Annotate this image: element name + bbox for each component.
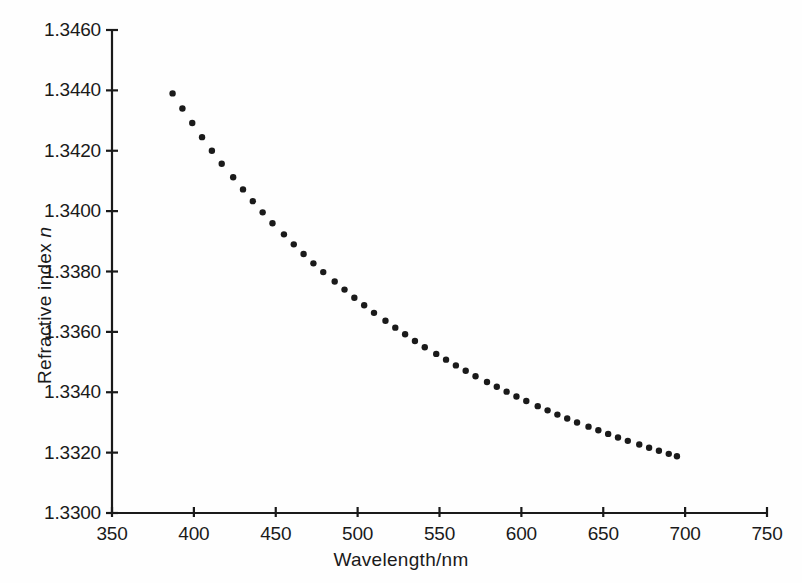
data-point [453, 362, 459, 368]
data-point [250, 198, 256, 204]
data-point [341, 286, 347, 292]
y-tick-label: 1.3400 [44, 200, 101, 222]
data-point [382, 318, 388, 324]
data-points-group [169, 90, 680, 459]
data-point [433, 351, 439, 357]
data-point [269, 220, 275, 226]
data-point [484, 379, 490, 385]
y-tick-label: 1.3440 [44, 79, 101, 101]
y-tick-label: 1.3460 [44, 19, 101, 41]
data-point [472, 373, 478, 379]
y-axis-title-symbol: n [34, 227, 55, 238]
data-point [656, 448, 662, 454]
data-point [179, 105, 185, 111]
x-tick-label: 750 [727, 523, 802, 545]
data-point [674, 453, 680, 459]
data-point [422, 344, 428, 350]
data-point [494, 384, 500, 390]
data-point [412, 338, 418, 344]
x-tick-label: 550 [400, 523, 480, 545]
data-point [169, 90, 175, 96]
data-point [230, 174, 236, 180]
x-tick-label: 500 [318, 523, 398, 545]
x-tick-label: 600 [481, 523, 561, 545]
y-tick-label: 1.3320 [44, 442, 101, 464]
data-point [219, 161, 225, 167]
data-point [240, 186, 246, 192]
data-point [392, 324, 398, 330]
data-point [535, 403, 541, 409]
data-point [544, 407, 550, 413]
x-axis-title: Wavelength/nm [0, 549, 802, 571]
data-point [351, 295, 357, 301]
data-point [574, 419, 580, 425]
y-axis-title-space [34, 237, 55, 243]
data-point [605, 431, 611, 437]
data-point [209, 148, 215, 154]
data-point [443, 356, 449, 362]
data-point [371, 310, 377, 316]
axes-group [106, 29, 768, 517]
y-tick-label: 1.3420 [44, 140, 101, 162]
data-point [300, 251, 306, 257]
data-point [615, 434, 621, 440]
data-point [564, 415, 570, 421]
data-point [463, 368, 469, 374]
data-point [310, 260, 316, 266]
x-tick-label: 350 [72, 523, 152, 545]
data-point [636, 441, 642, 447]
figure-container: 1.33001.33201.33401.33601.33801.34001.34… [0, 0, 802, 583]
y-tick-label: 1.3300 [44, 502, 101, 524]
chart-plot-area [0, 0, 802, 583]
data-point [646, 445, 652, 451]
data-point [332, 278, 338, 284]
data-point [281, 231, 287, 237]
data-point [554, 411, 560, 417]
y-axis-title: Refractive index n [34, 227, 56, 385]
data-point [585, 423, 591, 429]
data-point [503, 388, 509, 394]
data-point [199, 134, 205, 140]
y-axis-title-text: Refractive index [34, 243, 55, 384]
data-point [402, 331, 408, 337]
data-point [666, 451, 672, 457]
data-point [291, 241, 297, 247]
x-tick-label: 450 [236, 523, 316, 545]
data-point [513, 393, 519, 399]
x-tick-label: 700 [645, 523, 725, 545]
data-point [320, 269, 326, 275]
data-point [595, 427, 601, 433]
x-tick-label: 650 [563, 523, 643, 545]
data-point [361, 302, 367, 308]
x-tick-label: 400 [154, 523, 234, 545]
y-tick-label: 1.3340 [44, 381, 101, 403]
data-point [189, 120, 195, 126]
data-point [625, 438, 631, 444]
data-point [523, 398, 529, 404]
data-point [259, 209, 265, 215]
